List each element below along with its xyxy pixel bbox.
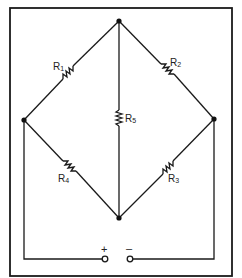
terminal-positive-sign: + [101,243,107,255]
wheatstone-bridge-diagram: + – R1 R2 R5 R4 R3 [0,0,242,278]
terminal-negative [127,256,133,262]
diagram-frame [10,8,232,276]
node-left [21,117,26,122]
terminal-positive [102,256,108,262]
label-r2: R2 [170,57,181,68]
wire-right-supply [133,119,214,259]
resistor-r3 [119,119,214,218]
label-r1: R1 [53,61,64,72]
resistor-r4 [24,120,119,218]
node-bottom [116,215,121,220]
label-r5: R5 [125,113,136,124]
resistor-r1 [24,21,119,120]
terminal-negative-sign: – [126,242,133,254]
wire-left-supply [24,120,102,259]
label-r4: R4 [58,173,69,184]
resistor-r2 [119,21,214,119]
node-top [116,18,121,23]
resistor-r5 [116,21,122,218]
label-r3: R3 [168,173,179,184]
node-right [211,116,216,121]
